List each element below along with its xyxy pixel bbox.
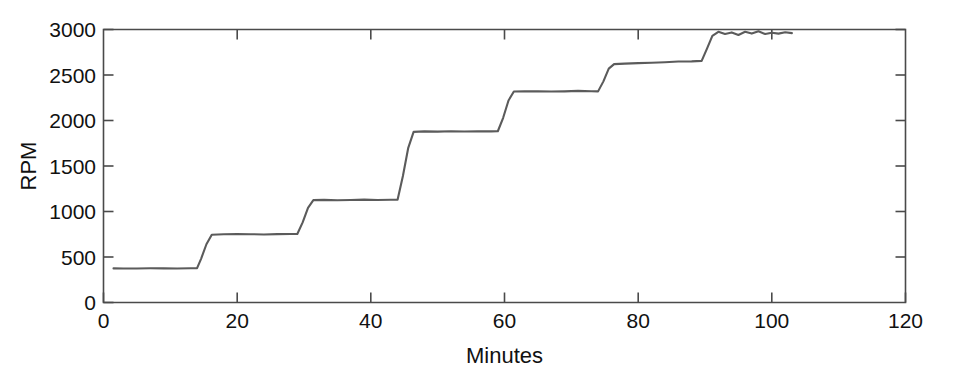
x-tick-label-0: 0 (98, 309, 110, 332)
x-tick-marks (104, 30, 906, 303)
y-tick-label-500: 500 (61, 246, 96, 269)
x-tick-label-120: 120 (888, 309, 923, 332)
y-tick-label-3000: 3000 (49, 18, 96, 41)
rpm-series-line (114, 31, 792, 268)
x-tick-label-80: 80 (627, 309, 650, 332)
axes-frame (104, 30, 906, 303)
rpm-vs-minutes-chart: 3000 2500 2000 1500 1000 500 0 0 20 40 6… (0, 0, 953, 377)
y-tick-label-1500: 1500 (49, 155, 96, 178)
y-tick-marks (104, 30, 906, 303)
y-axis-title: RPM (16, 142, 41, 191)
y-tick-label-2000: 2000 (49, 109, 96, 132)
y-tick-label-0: 0 (84, 291, 96, 314)
chart-figure: 3000 2500 2000 1500 1000 500 0 0 20 40 6… (0, 0, 953, 377)
x-tick-label-60: 60 (493, 309, 516, 332)
x-tick-label-20: 20 (226, 309, 249, 332)
y-tick-label-1000: 1000 (49, 200, 96, 223)
axis-box (104, 30, 906, 303)
y-tick-labels: 3000 2500 2000 1500 1000 500 0 (49, 18, 96, 314)
y-tick-label-2500: 2500 (49, 64, 96, 87)
x-tick-label-100: 100 (754, 309, 789, 332)
x-tick-labels: 0 20 40 60 80 100 120 (98, 309, 923, 332)
x-axis-title: Minutes (466, 343, 543, 368)
x-tick-label-40: 40 (359, 309, 382, 332)
